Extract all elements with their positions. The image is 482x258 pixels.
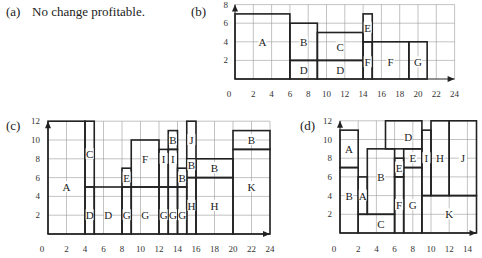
x-tick-label: 22 bbox=[432, 89, 441, 99]
region-label: J bbox=[189, 134, 194, 146]
region-label: J bbox=[461, 152, 466, 164]
region-label: G bbox=[414, 56, 422, 68]
region-label: B bbox=[248, 134, 255, 146]
region-label: A bbox=[63, 181, 71, 193]
x-tick-label: 8 bbox=[120, 244, 125, 254]
x-tick-label: 20 bbox=[414, 89, 424, 99]
region-label: B bbox=[188, 159, 195, 171]
region-label: B bbox=[169, 134, 176, 146]
region-label: A bbox=[258, 36, 266, 48]
charts-canvas: 0246810121416182022242468ABCDDEFFG 02468… bbox=[0, 0, 482, 258]
region-label: G bbox=[178, 209, 186, 221]
y-axis-arrow-icon bbox=[232, 5, 238, 12]
x-tick-label: 2 bbox=[356, 244, 361, 254]
x-tick-label: 0 bbox=[332, 244, 337, 254]
region-label: F bbox=[396, 199, 402, 211]
region-label: I bbox=[425, 152, 429, 164]
x-axis-arrow-icon bbox=[448, 76, 455, 82]
x-tick-label: 14 bbox=[359, 89, 369, 99]
region-label: A bbox=[359, 190, 367, 202]
region-label: C bbox=[377, 218, 384, 230]
x-tick-label: 24 bbox=[450, 89, 460, 99]
x-tick-label: 4 bbox=[374, 244, 379, 254]
x-tick-label: 8 bbox=[306, 89, 311, 99]
y-tick-label: 12 bbox=[323, 116, 332, 126]
y-tick-label: 6 bbox=[328, 172, 333, 182]
y-tick-label: 8 bbox=[224, 0, 229, 10]
x-tick-label: 20 bbox=[229, 244, 239, 254]
x-tick-label: 8 bbox=[411, 244, 416, 254]
x-tick-label: 4 bbox=[269, 89, 274, 99]
region-label: F bbox=[365, 56, 371, 68]
x-tick-label: 2 bbox=[251, 89, 256, 99]
x-tick-label: 16 bbox=[377, 89, 387, 99]
region-label: G bbox=[160, 209, 168, 221]
y-tick-label: 12 bbox=[31, 116, 40, 126]
region-label: D bbox=[336, 64, 344, 76]
x-tick-label: 0 bbox=[40, 244, 45, 254]
region-label: E bbox=[364, 22, 371, 34]
region-label: K bbox=[248, 181, 256, 193]
region-label: B bbox=[300, 36, 307, 48]
y-tick-label: 4 bbox=[224, 37, 229, 47]
region-label: G bbox=[141, 209, 149, 221]
chart-b: 0246810121416182022242468ABCDDEFFG bbox=[224, 0, 460, 99]
y-tick-label: 8 bbox=[36, 154, 41, 164]
region-label: D bbox=[86, 209, 94, 221]
x-tick-label: 24 bbox=[266, 244, 276, 254]
region-label: F bbox=[142, 153, 148, 165]
region-label: C bbox=[86, 148, 93, 160]
x-tick-label: 16 bbox=[192, 244, 202, 254]
y-axis-arrow-icon bbox=[337, 121, 343, 128]
y-tick-label: 10 bbox=[323, 135, 333, 145]
region-label: K bbox=[445, 208, 453, 220]
x-tick-label: 10 bbox=[136, 244, 146, 254]
region-label: B bbox=[178, 172, 185, 184]
chart-d: 0246810121424681012ABABCDEEFGIHJK bbox=[323, 116, 477, 254]
y-tick-label: 6 bbox=[224, 18, 229, 28]
x-tick-label: 6 bbox=[392, 244, 397, 254]
region-label: B bbox=[377, 171, 384, 183]
region-label: B bbox=[345, 190, 352, 202]
region-label: D bbox=[104, 209, 112, 221]
y-tick-label: 6 bbox=[36, 173, 41, 183]
region-label: G bbox=[169, 209, 177, 221]
region-label: E bbox=[409, 152, 416, 164]
region-label: I bbox=[171, 153, 175, 165]
region-label: E bbox=[123, 172, 130, 184]
x-tick-label: 12 bbox=[340, 89, 349, 99]
x-tick-label: 0 bbox=[227, 89, 232, 99]
x-tick-label: 12 bbox=[445, 244, 454, 254]
x-tick-label: 4 bbox=[83, 244, 88, 254]
x-tick-label: 14 bbox=[173, 244, 183, 254]
region-label: B bbox=[211, 162, 218, 174]
region-label: H bbox=[187, 200, 195, 212]
region-label: H bbox=[211, 200, 219, 212]
x-tick-label: 22 bbox=[247, 244, 256, 254]
region-label: G bbox=[409, 199, 417, 211]
x-tick-label: 6 bbox=[288, 89, 293, 99]
chart-c: 02468101214161820222424681012ACDDEGFGIGB… bbox=[31, 116, 275, 254]
region-label: C bbox=[337, 41, 344, 53]
y-tick-label: 4 bbox=[36, 191, 41, 201]
x-tick-label: 18 bbox=[210, 244, 220, 254]
region-label: F bbox=[387, 56, 393, 68]
region-label: A bbox=[345, 143, 353, 155]
y-tick-label: 2 bbox=[224, 55, 229, 65]
x-tick-label: 14 bbox=[463, 244, 473, 254]
x-tick-label: 10 bbox=[427, 244, 437, 254]
region-label: D bbox=[300, 64, 308, 76]
region-label: D bbox=[404, 131, 412, 143]
x-tick-label: 6 bbox=[101, 244, 106, 254]
region-label: G bbox=[123, 209, 131, 221]
region-label: E bbox=[396, 162, 403, 174]
y-tick-label: 2 bbox=[36, 210, 41, 220]
x-tick-label: 18 bbox=[395, 89, 405, 99]
region-label: H bbox=[436, 152, 444, 164]
y-tick-label: 2 bbox=[328, 209, 333, 219]
y-tick-label: 10 bbox=[31, 135, 41, 145]
y-tick-label: 4 bbox=[328, 191, 333, 201]
x-tick-label: 2 bbox=[64, 244, 69, 254]
x-tick-label: 10 bbox=[322, 89, 332, 99]
y-tick-label: 8 bbox=[328, 153, 333, 163]
